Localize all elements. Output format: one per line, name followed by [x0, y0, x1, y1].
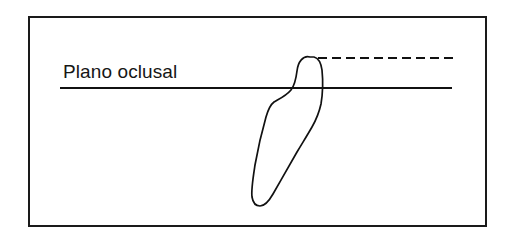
figure-canvas: Plano oclusal [0, 0, 509, 235]
dental-occlusal-plane-figure: Plano oclusal [0, 0, 509, 235]
figure-frame-border [29, 17, 486, 226]
plano-oclusal-label: Plano oclusal [63, 61, 177, 82]
